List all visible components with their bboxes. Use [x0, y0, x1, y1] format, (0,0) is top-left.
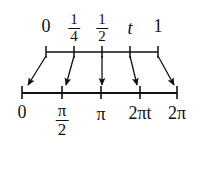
bottom-label-0: 0	[18, 103, 27, 121]
top-label-one-quarter: 1 4	[68, 12, 80, 45]
top-label-t: t	[127, 19, 132, 37]
mapping-arrow-3	[130, 56, 137, 85]
mapping-arrow-4	[158, 56, 174, 85]
fraction-denominator: 2	[56, 121, 69, 138]
mapping-arrow-0	[28, 56, 46, 85]
fraction-numerator: 1	[68, 12, 80, 27]
fraction-denominator: 4	[68, 29, 80, 44]
bottom-label-two-pi: 2π	[168, 104, 186, 122]
bottom-axis-group	[22, 86, 177, 99]
bottom-label-pi-over-2: π 2	[56, 102, 69, 139]
fraction-pi-over-two: π 2	[56, 102, 69, 139]
fraction-numerator: 1	[96, 12, 108, 27]
fraction-denominator: 2	[96, 29, 108, 44]
fraction-numerator: π	[56, 102, 69, 119]
fraction-one-half: 1 2	[96, 12, 108, 45]
interval-mapping-figure: 0 1 4 1 2 t 1 0 π 2 π 2πt 2π	[0, 0, 208, 188]
fraction-one-quarter: 1 4	[68, 12, 80, 45]
bottom-label-pi: π	[96, 105, 105, 123]
top-label-1: 1	[154, 17, 163, 35]
top-label-0: 0	[42, 17, 51, 35]
mapping-arrows-group	[28, 56, 174, 85]
bottom-label-two-pi-t: 2πt	[128, 104, 151, 122]
top-label-one-half: 1 2	[96, 12, 108, 45]
mapping-arrow-1	[66, 56, 74, 85]
